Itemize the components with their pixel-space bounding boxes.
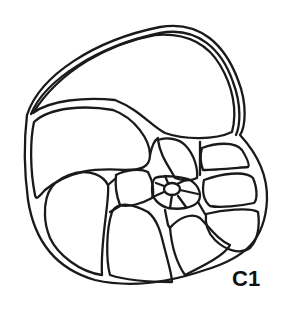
chamber-bottom-middle	[107, 205, 172, 282]
chamber-inner-left	[116, 170, 154, 206]
chamber-inner-upper	[158, 138, 197, 180]
central-whorl	[152, 176, 200, 209]
chamber-left-upper	[31, 108, 150, 198]
figure-label: C1	[232, 268, 260, 290]
chamber-right-1	[201, 144, 249, 170]
chamber-left-lower	[45, 172, 108, 275]
foraminifera-drawing	[0, 0, 282, 310]
chamber-right-2	[203, 174, 256, 207]
